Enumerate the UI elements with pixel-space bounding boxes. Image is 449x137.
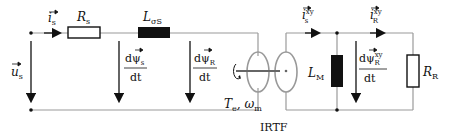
svg-text:dt: dt <box>130 71 142 84</box>
leakage-inductance-label: LσS <box>142 10 162 26</box>
terminal-bottom <box>29 108 33 112</box>
magnetizing-inductance-label: LM <box>307 66 324 82</box>
rotor-resistance-label: RR <box>422 65 439 81</box>
circuit-diagram: is Rs LσS us dψs dt dψR dt <box>0 0 449 137</box>
svg-text:dt: dt <box>199 71 211 84</box>
leakage-inductor <box>138 27 170 38</box>
rotor-resistor <box>407 55 419 87</box>
svg-text:dt: dt <box>364 72 376 85</box>
svg-text:dψR: dψR <box>194 52 216 67</box>
irtf-symbol <box>234 52 297 92</box>
terminal-top <box>29 31 33 35</box>
dpsi-s-fraction: dψs dt <box>124 52 147 84</box>
stator-resistance-label: Rs <box>76 10 90 26</box>
magnetizing-inductor <box>331 55 343 87</box>
rotor-wires <box>286 31 413 112</box>
stator-resistor <box>68 27 100 38</box>
irtf-label: IRTF <box>260 121 288 134</box>
stator-voltage-label: us <box>11 65 23 81</box>
svg-text:dψxyR: dψxyR <box>359 51 383 67</box>
svg-text:dψs: dψs <box>125 52 145 67</box>
dpsi-r-fraction: dψR dt <box>193 52 217 84</box>
dpsi-r-xy-fraction: dψxyR dt <box>359 51 387 85</box>
torque-speed-label: Te, ωm <box>224 97 262 113</box>
